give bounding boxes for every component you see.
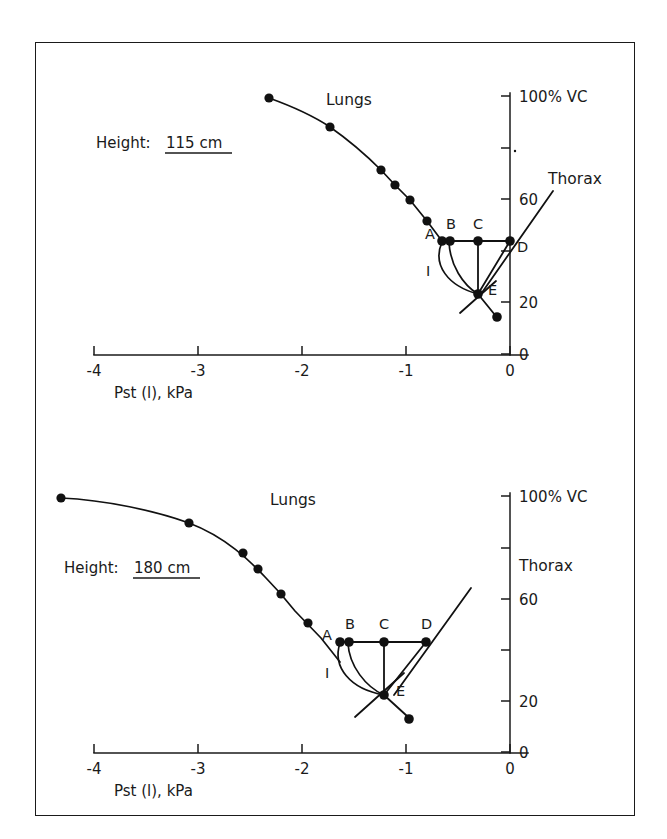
lungs-data-point bbox=[422, 216, 431, 225]
y-tick-label-60: 60 bbox=[519, 191, 538, 209]
lungs-series-label: Lungs bbox=[326, 91, 372, 109]
y-tick-label-0: 0 bbox=[519, 346, 529, 364]
point-label-i: I bbox=[325, 665, 329, 681]
x-axis-title: Pst (l), kPa bbox=[114, 782, 193, 800]
chart-panel-115cm: -4 -3 -2 -1 0 Pst (l), kPa 100% VC 60 20… bbox=[36, 43, 636, 423]
point-label-e: E bbox=[396, 683, 405, 699]
point-label-c: C bbox=[379, 616, 389, 632]
x-tick-label-2: -2 bbox=[295, 362, 310, 380]
lungs-data-point bbox=[184, 518, 193, 527]
height-value: 180 cm bbox=[134, 559, 190, 577]
y-axis-top-label: 100% VC bbox=[519, 88, 587, 106]
point-label-e: E bbox=[488, 282, 497, 298]
point-label-b: B bbox=[345, 616, 355, 632]
thorax-series-label: Thorax bbox=[547, 170, 602, 188]
x-tick-label-4: 0 bbox=[505, 760, 515, 778]
y-tick-label-60: 60 bbox=[519, 591, 538, 609]
x-tick-label-2: -2 bbox=[295, 760, 310, 778]
extra-data-point bbox=[404, 714, 414, 724]
lungs-data-point bbox=[303, 618, 312, 627]
lungs-data-point bbox=[276, 589, 285, 598]
extra-data-point bbox=[492, 312, 502, 322]
point-c-marker bbox=[379, 637, 389, 647]
point-label-c: C bbox=[473, 216, 483, 232]
loop-inner-curve bbox=[449, 242, 478, 294]
height-value: 115 cm bbox=[166, 134, 222, 152]
x-tick-label-1: -3 bbox=[191, 760, 206, 778]
point-e-marker bbox=[473, 289, 483, 299]
point-label-a: A bbox=[425, 226, 435, 242]
point-d-marker bbox=[505, 236, 515, 246]
x-tick-label-0: -4 bbox=[87, 760, 102, 778]
loop-inner-curve bbox=[348, 643, 384, 695]
lungs-data-point bbox=[56, 493, 65, 502]
point-label-d: D bbox=[421, 616, 432, 632]
height-label-prefix: Height: bbox=[64, 559, 119, 577]
lungs-series-label: Lungs bbox=[270, 491, 316, 509]
figure-frame: -4 -3 -2 -1 0 Pst (l), kPa 100% VC 60 20… bbox=[35, 42, 635, 816]
point-b-marker bbox=[344, 637, 354, 647]
height-label-prefix: Height: bbox=[96, 134, 151, 152]
point-d-marker bbox=[421, 637, 431, 647]
x-tick-label-4: 0 bbox=[505, 362, 515, 380]
point-c-marker bbox=[473, 236, 483, 246]
point-label-d: D bbox=[517, 239, 528, 255]
lungs-curve bbox=[269, 98, 442, 241]
y-tick-label-0: 0 bbox=[519, 744, 529, 762]
y-tick-label-20: 20 bbox=[519, 294, 538, 312]
thorax-series-label: Thorax bbox=[518, 557, 573, 575]
point-label-b: B bbox=[446, 216, 456, 232]
x-tick-label-0: -4 bbox=[87, 362, 102, 380]
x-tick-label-3: -1 bbox=[399, 760, 414, 778]
loop-outer-curve bbox=[439, 242, 478, 294]
point-e-marker bbox=[379, 690, 389, 700]
y-axis-top-label: 100% VC bbox=[519, 488, 587, 506]
lungs-data-point bbox=[405, 195, 414, 204]
y-tick-label-20: 20 bbox=[519, 693, 538, 711]
lungs-data-point bbox=[253, 564, 262, 573]
point-a-marker bbox=[335, 637, 345, 647]
point-b-marker bbox=[445, 236, 455, 246]
lungs-data-point bbox=[390, 180, 399, 189]
axis-speck bbox=[514, 150, 516, 152]
chart-svg-180cm: -4 -3 -2 -1 0 Pst (l), kPa 100% VC 60 20… bbox=[36, 423, 636, 817]
lungs-data-point bbox=[264, 93, 273, 102]
point-label-i: I bbox=[426, 263, 430, 279]
point-label-a: A bbox=[322, 627, 332, 643]
x-tick-label-1: -3 bbox=[191, 362, 206, 380]
chart-panel-180cm: -4 -3 -2 -1 0 Pst (l), kPa 100% VC 60 20… bbox=[36, 423, 636, 817]
lungs-curve bbox=[61, 498, 340, 662]
lungs-data-point bbox=[376, 165, 385, 174]
x-axis-title: Pst (l), kPa bbox=[114, 384, 193, 402]
loop-outer-curve bbox=[338, 643, 384, 695]
chart-svg-115cm: -4 -3 -2 -1 0 Pst (l), kPa 100% VC 60 20… bbox=[36, 43, 636, 423]
lungs-data-point bbox=[238, 548, 247, 557]
lungs-data-point bbox=[325, 122, 334, 131]
x-tick-label-3: -1 bbox=[399, 362, 414, 380]
